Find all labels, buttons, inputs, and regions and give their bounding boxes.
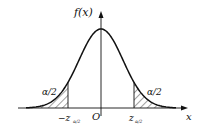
- right-tail-area-label: α/2: [147, 87, 162, 97]
- normal-distribution-chart: f(x) x O α/2 α/2 −z α/2 z α/2: [0, 0, 204, 130]
- origin-label: O: [92, 111, 100, 122]
- svg-text:z: z: [128, 113, 134, 123]
- svg-text:α/2: α/2: [135, 119, 143, 124]
- svg-text:−z: −z: [58, 113, 71, 123]
- left-tail-area-label: α/2: [42, 87, 57, 97]
- left-critical-value-label: −z α/2: [58, 113, 81, 124]
- right-critical-value-label: z α/2: [128, 113, 143, 124]
- y-axis-label: f(x): [73, 6, 93, 19]
- x-axis-label: x: [186, 111, 192, 122]
- y-axis-arrow-icon: [99, 11, 104, 18]
- x-axis-arrow-icon: [181, 106, 188, 111]
- svg-text:α/2: α/2: [73, 119, 81, 124]
